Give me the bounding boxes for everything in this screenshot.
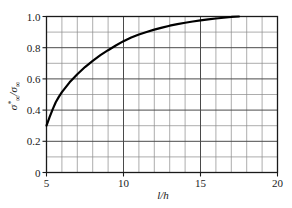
x-tick-label: 5 (44, 177, 50, 189)
stress-ratio-chart: 5101520 00.20.40.60.81.0 l/h σ*∞/σ∞ (0, 0, 292, 208)
y-tick-label: 0.8 (27, 42, 41, 54)
y-tick-label: 0 (35, 167, 41, 179)
x-tick-label: 15 (195, 177, 207, 189)
y-tick-label: 0.6 (27, 73, 41, 85)
y-tick-label: 0.4 (27, 104, 41, 116)
x-tick-label: 10 (118, 177, 130, 189)
x-tick-label: 20 (272, 177, 284, 189)
y-tick-label: 1.0 (27, 11, 41, 23)
figure-container: 5101520 00.20.40.60.81.0 l/h σ*∞/σ∞ (0, 0, 292, 208)
x-axis-title: l/h (157, 189, 169, 201)
y-tick-label: 0.2 (27, 135, 41, 147)
